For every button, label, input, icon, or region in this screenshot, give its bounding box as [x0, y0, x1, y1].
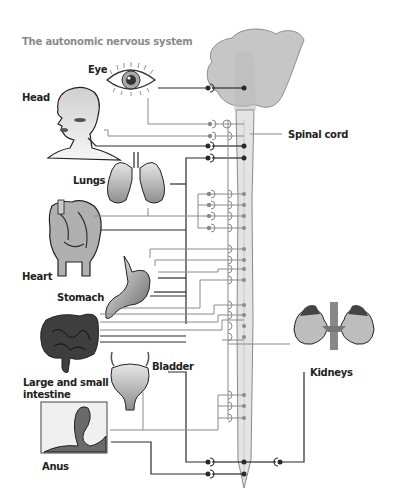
stomach-illustration	[106, 256, 150, 318]
brain-shape	[207, 29, 304, 110]
label-stomach: Stomach	[57, 292, 104, 304]
label-lungs: Lungs	[73, 175, 105, 187]
label-kidneys: Kidneys	[310, 367, 353, 379]
label-intestine-line1: Large and small	[23, 377, 108, 389]
kidneys-illustration	[294, 302, 374, 350]
spinal-cord-shape	[236, 110, 254, 488]
label-anus: Anus	[42, 461, 69, 473]
label-intestine-line2: intestine	[23, 389, 70, 401]
eye-illustration	[107, 62, 155, 96]
label-heart: Heart	[22, 271, 52, 283]
intestine-illustration	[41, 314, 99, 373]
anus-illustration	[41, 402, 107, 453]
heart-illustration	[49, 200, 101, 276]
label-eye: Eye	[88, 64, 107, 76]
head-illustration	[48, 87, 120, 160]
label-bladder: Bladder	[152, 361, 194, 373]
label-head: Head	[22, 92, 50, 104]
nerve-pathways	[88, 88, 304, 474]
nervous-system-diagram	[0, 0, 400, 500]
label-spinal-cord: Spinal cord	[288, 129, 348, 141]
